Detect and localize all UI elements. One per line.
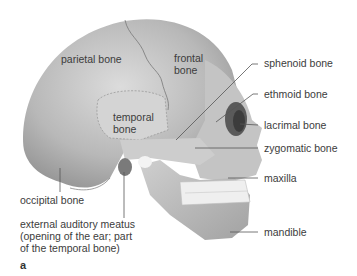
label-temporal-bone-line2: bone [113,123,136,135]
label-maxilla: maxilla [264,172,297,184]
label-parietal-bone: parietal bone [61,53,122,65]
panel-letter: a [20,259,26,271]
label-zygomatic-bone: zygomatic bone [264,142,338,154]
label-occipital-bone: occipital bone [20,194,84,206]
zygomatic-arch [120,138,215,165]
label-frontal-bone-line1: frontal [174,52,203,64]
label-frontal-bone-line2: bone [174,64,197,76]
label-external-auditory-meatus-line1: external auditory meatus [20,218,135,230]
label-sphenoid-bone: sphenoid bone [264,57,333,69]
label-ethmoid-bone: ethmoid bone [264,88,328,100]
label-external-auditory-meatus-line3: of the temporal bone) [20,242,120,254]
ear-opening [118,158,132,176]
label-temporal-bone-line1: temporal [113,111,154,123]
teeth [180,180,250,205]
label-mandible: mandible [264,226,307,238]
label-external-auditory-meatus-line2: (opening of the ear; part [20,230,132,242]
label-lacrimal-bone: lacrimal bone [264,119,326,131]
